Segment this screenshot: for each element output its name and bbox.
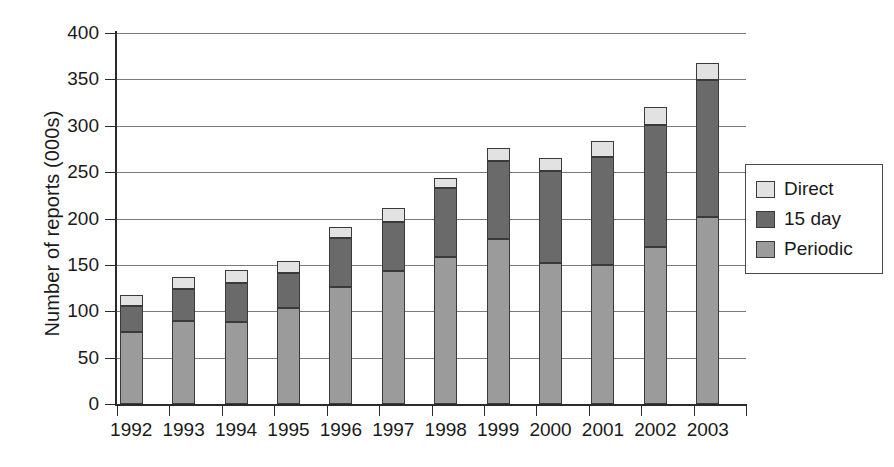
bar-group[interactable] (644, 33, 667, 404)
bar-segment-periodic[interactable] (644, 247, 667, 404)
y-axis-tick-mark (105, 79, 116, 80)
bar-group[interactable] (591, 33, 614, 404)
bar-segment-periodic[interactable] (329, 287, 352, 404)
y-axis-tick-mark (105, 311, 116, 312)
x-axis-tick-label: 2001 (573, 420, 633, 439)
bars-layer (117, 33, 746, 404)
legend-label: 15 day (784, 208, 841, 230)
x-axis-tick-mark (117, 406, 118, 416)
legend-swatch (756, 211, 775, 228)
bar-group[interactable] (382, 33, 405, 404)
bar-segment-15-day[interactable] (120, 306, 143, 332)
legend-item-periodic[interactable]: Periodic (756, 234, 874, 264)
x-axis-tick-mark (169, 406, 170, 416)
bar-segment-15-day[interactable] (329, 238, 352, 287)
bar-segment-periodic[interactable] (487, 239, 510, 404)
y-axis-tick-label: 100 (39, 301, 99, 320)
bar-segment-periodic[interactable] (539, 263, 562, 404)
bar-segment-direct[interactable] (539, 158, 562, 171)
legend-swatch (756, 241, 775, 258)
legend-item-direct[interactable]: Direct (756, 174, 874, 204)
bar-segment-periodic[interactable] (382, 271, 405, 404)
bar-segment-direct[interactable] (382, 208, 405, 222)
x-axis-tick-mark (327, 406, 328, 416)
x-axis-tick-mark (694, 406, 695, 416)
legend-swatch (756, 181, 775, 198)
y-axis-tick-label: 250 (39, 162, 99, 181)
y-axis-tick-mark (105, 219, 116, 220)
x-axis-tick-label: 1997 (363, 420, 423, 439)
bar-segment-direct[interactable] (329, 227, 352, 238)
x-axis-tick-mark (536, 406, 537, 416)
x-axis-tick-label: 1999 (468, 420, 528, 439)
bar-group[interactable] (120, 33, 143, 404)
bar-segment-direct[interactable] (591, 141, 614, 158)
y-axis-tick-mark (105, 33, 116, 34)
y-axis-tick-mark (105, 404, 116, 405)
legend-item-15-day[interactable]: 15 day (756, 204, 874, 234)
stacked-bar-chart: Number of reports (000s) 050100150200250… (0, 0, 894, 467)
x-axis-tick-mark (222, 406, 223, 416)
bar-segment-15-day[interactable] (277, 273, 300, 308)
y-axis-tick-mark (105, 265, 116, 266)
x-axis-tick-label: 1992 (101, 420, 161, 439)
x-axis-tick-label: 2002 (625, 420, 685, 439)
x-axis-tick-mark (484, 406, 485, 416)
bar-segment-15-day[interactable] (539, 171, 562, 263)
bar-segment-periodic[interactable] (172, 321, 195, 404)
bar-segment-15-day[interactable] (225, 283, 248, 322)
bar-group[interactable] (539, 33, 562, 404)
x-axis-tick-label: 1995 (258, 420, 318, 439)
x-axis-tick-mark (432, 406, 433, 416)
x-axis-tick-label: 1993 (154, 420, 214, 439)
y-axis-tick-mark (105, 358, 116, 359)
bar-segment-15-day[interactable] (172, 289, 195, 321)
x-axis-tick-label: 1996 (311, 420, 371, 439)
bar-segment-direct[interactable] (172, 277, 195, 289)
y-axis-tick-labels: 050100150200250300350400 (35, 0, 99, 467)
bar-group[interactable] (487, 33, 510, 404)
bar-segment-direct[interactable] (644, 107, 667, 125)
y-axis-tick-label: 50 (39, 348, 99, 367)
legend-label: Direct (784, 178, 834, 200)
y-axis-tick-mark (105, 172, 116, 173)
bar-segment-direct[interactable] (277, 261, 300, 273)
x-axis-tick-mark (274, 406, 275, 416)
x-axis-tick-label: 1998 (416, 420, 476, 439)
x-axis-tick-label: 2000 (521, 420, 581, 439)
bar-group[interactable] (225, 33, 248, 404)
bar-group[interactable] (434, 33, 457, 404)
bar-segment-15-day[interactable] (487, 161, 510, 239)
bar-group[interactable] (277, 33, 300, 404)
x-axis-tick-mark (746, 406, 747, 416)
bar-segment-periodic[interactable] (120, 332, 143, 404)
x-axis-tick-mark (589, 406, 590, 416)
bar-group[interactable] (329, 33, 352, 404)
chart-legend: Direct15 dayPeriodic (745, 164, 883, 274)
bar-segment-direct[interactable] (434, 178, 457, 188)
y-axis-tick-label: 350 (39, 69, 99, 88)
y-axis-tick-label: 400 (39, 23, 99, 42)
x-axis-tick-mark (641, 406, 642, 416)
y-axis-tick-mark (105, 126, 116, 127)
bar-segment-15-day[interactable] (434, 188, 457, 257)
bar-group[interactable] (172, 33, 195, 404)
bar-segment-direct[interactable] (120, 295, 143, 306)
x-axis-tick-mark (379, 406, 380, 416)
bar-segment-15-day[interactable] (644, 125, 667, 247)
bar-segment-periodic[interactable] (225, 322, 248, 404)
bar-segment-periodic[interactable] (434, 257, 457, 404)
bar-segment-direct[interactable] (225, 270, 248, 283)
bar-segment-15-day[interactable] (696, 80, 719, 216)
legend-label: Periodic (784, 238, 853, 260)
bar-segment-15-day[interactable] (591, 157, 614, 265)
x-axis-tick-label: 2003 (678, 420, 738, 439)
bar-group[interactable] (696, 33, 719, 404)
bar-segment-15-day[interactable] (382, 222, 405, 271)
bar-segment-direct[interactable] (696, 63, 719, 81)
bar-segment-direct[interactable] (487, 148, 510, 161)
bar-segment-periodic[interactable] (696, 217, 719, 404)
bar-segment-periodic[interactable] (277, 308, 300, 404)
bar-segment-periodic[interactable] (591, 265, 614, 404)
y-axis-tick-label: 200 (39, 209, 99, 228)
